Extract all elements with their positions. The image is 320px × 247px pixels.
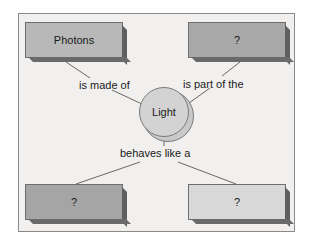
node-top-right: ?	[188, 22, 286, 58]
center-node-light: Light	[139, 87, 189, 137]
link-label-behaves-like-a: behaves like a	[120, 147, 190, 159]
box-bottom	[191, 219, 294, 224]
node-label: ?	[234, 196, 240, 208]
link-label-is-part-of-the: is part of the	[183, 78, 244, 90]
node-label: Photons	[54, 34, 94, 46]
node-photons: Photons	[25, 22, 123, 58]
box-bottom	[191, 57, 294, 62]
node-label: ?	[234, 34, 240, 46]
box-bottom	[28, 57, 131, 62]
node-bottom-left: ?	[25, 184, 123, 220]
node-label: ?	[71, 196, 77, 208]
node-bottom-right: ?	[188, 184, 286, 220]
link-label-is-made-of: is made of	[79, 79, 130, 91]
box-bottom	[28, 219, 131, 224]
center-label: Light	[152, 106, 176, 118]
